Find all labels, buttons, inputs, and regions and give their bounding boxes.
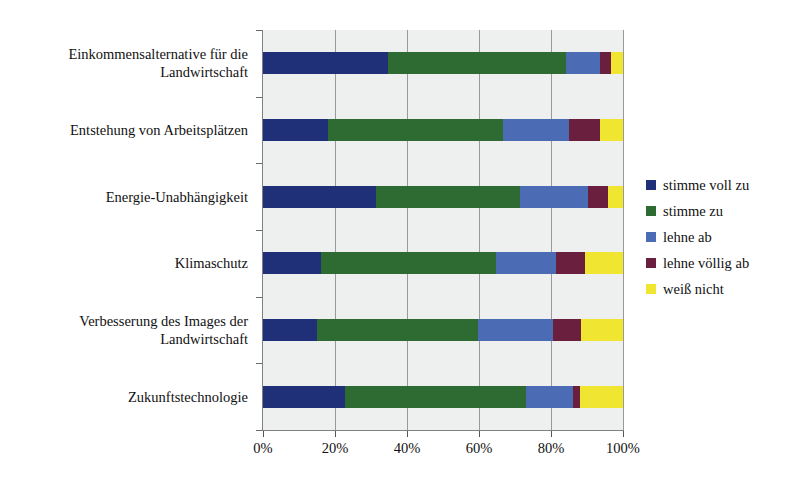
bar: [263, 252, 623, 274]
bar-segment: [263, 119, 328, 141]
bar-segment: [588, 186, 608, 208]
bar-segment: [581, 319, 623, 341]
y-tick-mark: [256, 163, 262, 164]
bar-segment: [556, 252, 584, 274]
bar-segment: [611, 52, 623, 74]
legend-swatch-icon: [646, 258, 656, 268]
bar-segment: [503, 119, 569, 141]
x-tick-mark: [551, 431, 552, 437]
bar-segment: [317, 319, 478, 341]
category-label-line: Zukunftstechnologie: [2, 388, 248, 406]
bar-segment: [328, 119, 503, 141]
category-label: Einkommensalternative für dieLandwirtsch…: [2, 45, 248, 81]
category-label-line: Klimaschutz: [2, 254, 248, 272]
category-label-line: Einkommensalternative für die: [2, 45, 248, 63]
bar-segment: [345, 386, 526, 408]
category-label: Klimaschutz: [2, 254, 248, 272]
category-label-line: Verbesserung des Images der: [2, 312, 248, 330]
x-tick-mark: [407, 431, 408, 437]
bar-segment: [608, 186, 623, 208]
bar: [263, 52, 623, 74]
bar: [263, 119, 623, 141]
y-tick-mark: [256, 97, 262, 98]
category-label: Verbesserung des Images derLandwirtschaf…: [2, 312, 248, 348]
gridline: [479, 30, 480, 430]
legend-item[interactable]: lehne ab: [646, 224, 798, 250]
x-tick-label: 60%: [449, 440, 509, 457]
category-label-line: Landwirtschaft: [2, 330, 248, 348]
legend-item[interactable]: weiß nicht: [646, 276, 798, 302]
bar-segment: [263, 386, 345, 408]
category-label-line: Landwirtschaft: [2, 63, 248, 81]
x-tick-label: 80%: [521, 440, 581, 457]
category-axis-labels: Einkommensalternative für dieLandwirtsch…: [4, 30, 256, 430]
x-tick-mark: [479, 431, 480, 437]
y-tick-mark: [256, 230, 262, 231]
legend-swatch-icon: [646, 232, 656, 242]
category-label: Zukunftstechnologie: [2, 388, 248, 406]
x-tick-label: 0%: [233, 440, 293, 457]
y-tick-mark: [256, 430, 262, 431]
legend-item[interactable]: stimme zu: [646, 198, 798, 224]
category-label-line: Entstehung von Arbeitsplätzen: [2, 121, 248, 139]
legend-item[interactable]: lehne völlig ab: [646, 250, 798, 276]
legend-swatch-icon: [646, 206, 656, 216]
bar: [263, 386, 623, 408]
bar-segment: [580, 386, 623, 408]
x-tick-mark: [263, 431, 264, 437]
y-tick-mark: [256, 363, 262, 364]
gridline: [623, 30, 624, 430]
legend-swatch-icon: [646, 180, 656, 190]
y-tick-mark: [256, 30, 262, 31]
bar-segment: [263, 52, 388, 74]
category-label-line: Energie-Unabhängigkeit: [2, 188, 248, 206]
bar: [263, 186, 623, 208]
gridline: [407, 30, 408, 430]
category-label: Entstehung von Arbeitsplätzen: [2, 121, 248, 139]
legend-item[interactable]: stimme voll zu: [646, 172, 798, 198]
category-label: Energie-Unabhängigkeit: [2, 188, 248, 206]
legend-label: lehne ab: [663, 229, 712, 246]
plot-area: [263, 30, 623, 430]
bar-segment: [553, 319, 581, 341]
legend-label: weiß nicht: [663, 281, 724, 298]
bar-segment: [569, 119, 600, 141]
bar-segment: [520, 186, 588, 208]
x-tick-mark: [335, 431, 336, 437]
chart-legend: stimme voll zustimme zulehne ablehne völ…: [646, 172, 798, 302]
gridline: [335, 30, 336, 430]
x-tick-label: 40%: [377, 440, 437, 457]
bar-segment: [263, 252, 321, 274]
bar-segment: [573, 386, 580, 408]
x-axis-line: [262, 430, 624, 431]
x-tick-label: 100%: [593, 440, 653, 457]
bar-segment: [321, 252, 497, 274]
stacked-bar-chart: Einkommensalternative für dieLandwirtsch…: [0, 0, 802, 484]
x-tick-mark: [623, 431, 624, 437]
bar: [263, 319, 623, 341]
gridline: [551, 30, 552, 430]
bar-segment: [600, 52, 611, 74]
legend-label: stimme zu: [663, 203, 723, 220]
chart-title-remnant: [150, 0, 570, 6]
bar-segment: [566, 52, 600, 74]
legend-label: stimme voll zu: [663, 177, 749, 194]
bar-segment: [526, 386, 573, 408]
legend-swatch-icon: [646, 284, 656, 294]
y-tick-mark: [256, 297, 262, 298]
bar-segment: [263, 319, 317, 341]
bar-segment: [376, 186, 520, 208]
legend-label: lehne völlig ab: [663, 255, 749, 272]
bar-segment: [585, 252, 623, 274]
bar-segment: [388, 52, 566, 74]
bar-segment: [600, 119, 623, 141]
x-tick-label: 20%: [305, 440, 365, 457]
bar-segment: [478, 319, 553, 341]
bar-segment: [496, 252, 556, 274]
bar-segment: [263, 186, 376, 208]
y-axis-line: [262, 30, 263, 431]
